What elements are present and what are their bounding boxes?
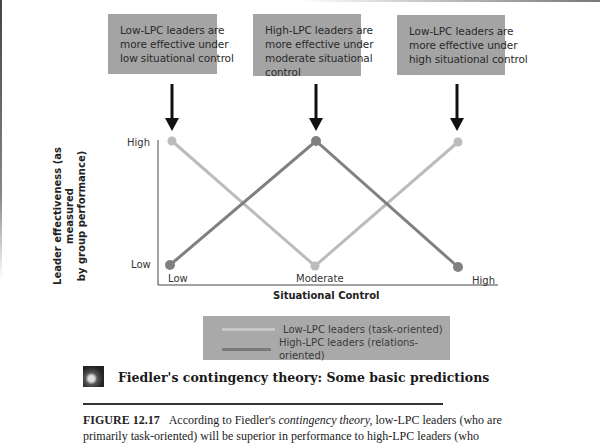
caption-text: low-LPC leaders (who are	[372, 413, 501, 427]
line-chart	[0, 0, 600, 300]
legend-label: Low-LPC leaders (task-oriented)	[283, 323, 443, 336]
legend-label: High-LPC leaders (relations-oriented)	[279, 336, 450, 362]
x-axis-label: Situational Control	[273, 290, 379, 301]
legend: Low-LPC leaders (task-oriented) High-LPC…	[203, 316, 450, 360]
legend-swatch	[222, 328, 275, 331]
x-tick-low: Low	[168, 273, 188, 284]
y-tick-high: High	[127, 137, 150, 148]
data-point	[311, 136, 321, 146]
series-high-lpc	[170, 141, 458, 267]
arrow-icon	[165, 84, 179, 131]
data-point	[168, 137, 177, 146]
legend-swatch	[222, 348, 271, 351]
legend-item-high-lpc: High-LPC leaders (relations-oriented)	[222, 336, 450, 362]
arrow-icon	[309, 84, 323, 131]
figure-caption: FIGURE 12.17 According to Fiedler's cont…	[83, 412, 600, 444]
y-tick-low: Low	[131, 259, 151, 270]
x-tick-high: High	[472, 275, 495, 286]
figure-title: Fiedler's contingency theory: Some basic…	[118, 370, 489, 385]
caption-emphasis: contingency theory,	[278, 413, 372, 427]
figure-thumbnail-icon	[83, 366, 104, 387]
arrow-icon	[450, 84, 464, 131]
caption-divider	[83, 403, 443, 405]
x-tick-moderate: Moderate	[296, 273, 344, 284]
data-point	[165, 260, 175, 270]
legend-item-low-lpc: Low-LPC leaders (task-oriented)	[222, 323, 450, 336]
caption-text: According to Fiedler's	[169, 413, 279, 427]
series-low-lpc	[172, 141, 458, 266]
caption-label: FIGURE 12.17	[83, 413, 160, 427]
y-axis-label-line: by group performance)	[76, 141, 88, 291]
caption-line: FIGURE 12.17 According to Fiedler's cont…	[83, 412, 600, 428]
data-point	[454, 138, 463, 147]
caption-line: primarily task-oriented) will be superio…	[83, 428, 600, 444]
y-axis-label-line: Leader effectiveness (as measured	[52, 141, 76, 291]
y-axis-label: Leader effectiveness (as measured by gro…	[52, 141, 88, 291]
data-point	[311, 262, 320, 271]
data-point	[453, 262, 463, 272]
